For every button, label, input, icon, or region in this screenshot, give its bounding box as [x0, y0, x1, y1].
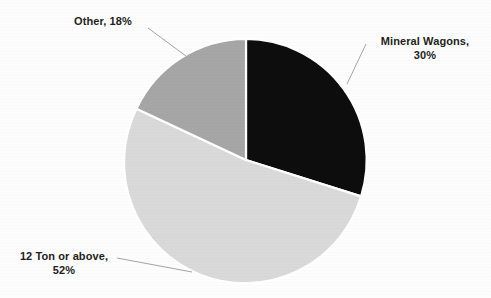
- leader-line-other: [148, 28, 186, 56]
- slice-label-other: Other, 18%: [74, 14, 132, 28]
- slice-label-12-ton-or-above: 12 Ton or above, 52%: [12, 249, 116, 277]
- slice-label-mineral-wagons: Mineral Wagons, 30%: [367, 34, 483, 62]
- chart-page: Other, 18% Mineral Wagons, 30% 12 Ton or…: [0, 0, 491, 298]
- leader-line-mineral-wagons: [347, 44, 366, 84]
